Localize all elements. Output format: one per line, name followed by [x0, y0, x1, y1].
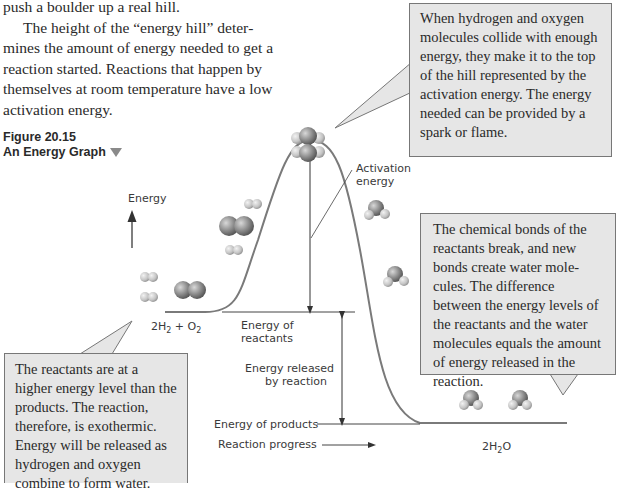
callout-pointer-bottom	[80, 321, 132, 354]
reactants-label-line1: Energy of	[241, 319, 294, 332]
callout-activation: When hydrogen and oxy­gen molecules coll…	[409, 3, 612, 157]
callout-pointer-top	[335, 62, 412, 128]
products-formula: 2H2O	[482, 440, 511, 454]
released-label-line1: Energy released	[245, 362, 327, 375]
h2-molecule-icon	[140, 292, 158, 302]
callout-pointer-middle	[550, 374, 578, 395]
reactants-label-line2: reactants	[241, 332, 294, 345]
activation-label-line1: Activation	[356, 162, 411, 175]
callout-exothermic: The reactants are at a higher energy lev…	[4, 353, 188, 483]
energy-axis-label: Energy	[128, 192, 167, 205]
reaction-progress-label: Reaction progress	[218, 438, 317, 451]
h2-molecule-icon	[140, 272, 158, 282]
callout-bonds: The chemical bonds of the reactants brea…	[420, 213, 616, 375]
energy-of-products-label: Energy of products	[214, 418, 318, 431]
water-molecule-icon	[364, 200, 390, 220]
h2-molecule-icon	[225, 245, 243, 255]
water-molecule-icon	[508, 390, 532, 410]
energy-released-label: Energy released by reaction	[245, 362, 327, 388]
activation-leader-line	[311, 170, 352, 238]
energy-of-reactants-label: Energy of reactants	[241, 319, 294, 345]
released-label-line2: by reaction	[245, 375, 327, 388]
water-molecule-icon	[383, 266, 409, 287]
activation-energy-label: Activation energy	[356, 162, 411, 188]
reactants-formula: 2H2 + O2	[151, 320, 201, 334]
water-molecule-icon	[459, 390, 483, 410]
h2-molecule-icon	[244, 199, 262, 209]
o2-molecule-icon	[174, 281, 206, 299]
o2-molecule-icon	[219, 216, 254, 236]
activated-complex-icon	[291, 127, 325, 162]
activation-label-line2: energy	[356, 175, 411, 188]
